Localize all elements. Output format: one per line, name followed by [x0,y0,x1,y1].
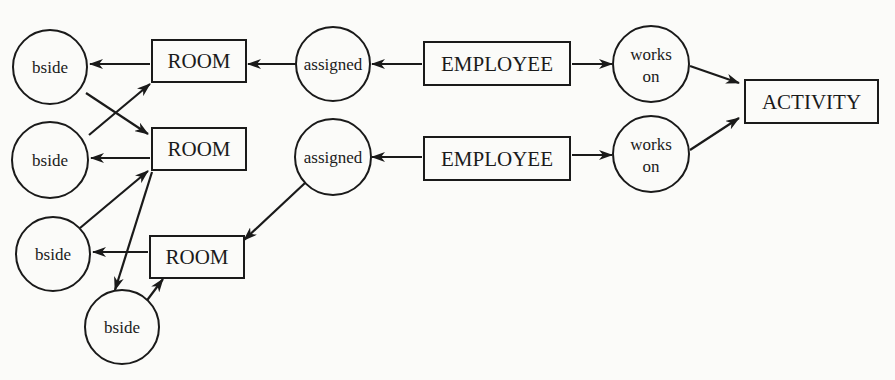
entity-label: ACTIVITY [762,90,861,114]
relationship-label: assigned [304,55,363,74]
edge-bside1-to-room2 [86,93,148,134]
relationship-label: bside [32,151,68,170]
relationship-node-bside2: bside [12,122,88,198]
entity-node-room2: ROOM [152,128,246,170]
relationship-node-bside4: bside [85,290,159,364]
entity-node-room1: ROOM [152,40,246,82]
relationship-label: bside [32,58,68,77]
entity-node-room3: ROOM [150,236,244,278]
entity-node-employee1: EMPLOYEE [424,42,570,85]
relationship-label: on [643,157,661,176]
relationships-layer: bsidebsidebsidebsideassignedassignedwork… [12,26,689,364]
relationship-label: on [643,67,661,86]
edge-assigned2-to-room3 [244,183,305,240]
entity-node-employee2: EMPLOYEE [424,137,570,180]
relationship-node-workson2: workson [613,116,689,192]
entities-layer: ROOMROOMROOMEMPLOYEEEMPLOYEEACTIVITY [150,40,878,278]
edge-room2-to-bside4 [115,172,152,290]
edge-workson2-to-activity [690,118,739,150]
relationship-label: works [630,135,672,154]
entity-node-activity: ACTIVITY [745,80,878,123]
er-diagram: bsidebsidebsidebsideassignedassignedwork… [0,0,895,380]
edge-workson1-to-activity [690,66,739,83]
relationship-node-assigned2: assigned [295,119,371,195]
relationship-label: works [630,45,672,64]
relationship-label: bside [35,245,71,264]
relationship-node-workson1: workson [613,26,689,102]
entity-label: ROOM [165,245,228,269]
relationship-label: assigned [304,148,363,167]
entity-label: ROOM [167,137,230,161]
entity-label: ROOM [167,49,230,73]
relationship-node-bside1: bside [13,30,87,104]
relationship-circle [613,26,689,102]
relationship-node-bside3: bside [16,217,90,291]
relationship-circle [613,116,689,192]
relationship-node-assigned1: assigned [296,27,370,101]
entity-label: EMPLOYEE [441,147,553,171]
relationship-label: bside [104,318,140,337]
edge-bside2-to-room1 [89,84,150,135]
entity-label: EMPLOYEE [441,52,553,76]
